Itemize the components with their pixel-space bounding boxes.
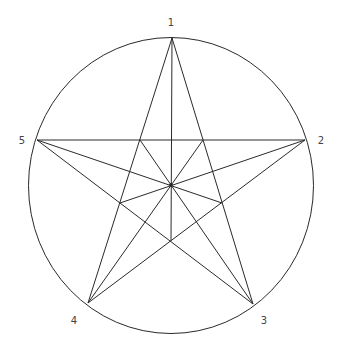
pentagram-lines bbox=[37, 38, 305, 304]
axis-line-1 bbox=[171, 38, 172, 241]
axis-line-3 bbox=[140, 140, 253, 304]
vertex-label-2: 2 bbox=[318, 135, 324, 146]
star-edge-4-1 bbox=[88, 38, 172, 303]
axis-line-5 bbox=[37, 140, 222, 203]
vertex-label-4: 4 bbox=[71, 315, 77, 326]
axis-line-4 bbox=[88, 140, 203, 303]
vertex-label-3: 3 bbox=[261, 315, 267, 326]
axis-line-2 bbox=[120, 140, 305, 203]
vertex-label-5: 5 bbox=[19, 135, 25, 146]
pentagram-diagram: 12345 bbox=[0, 0, 340, 361]
center-point bbox=[170, 184, 173, 187]
vertex-label-1: 1 bbox=[168, 17, 174, 28]
